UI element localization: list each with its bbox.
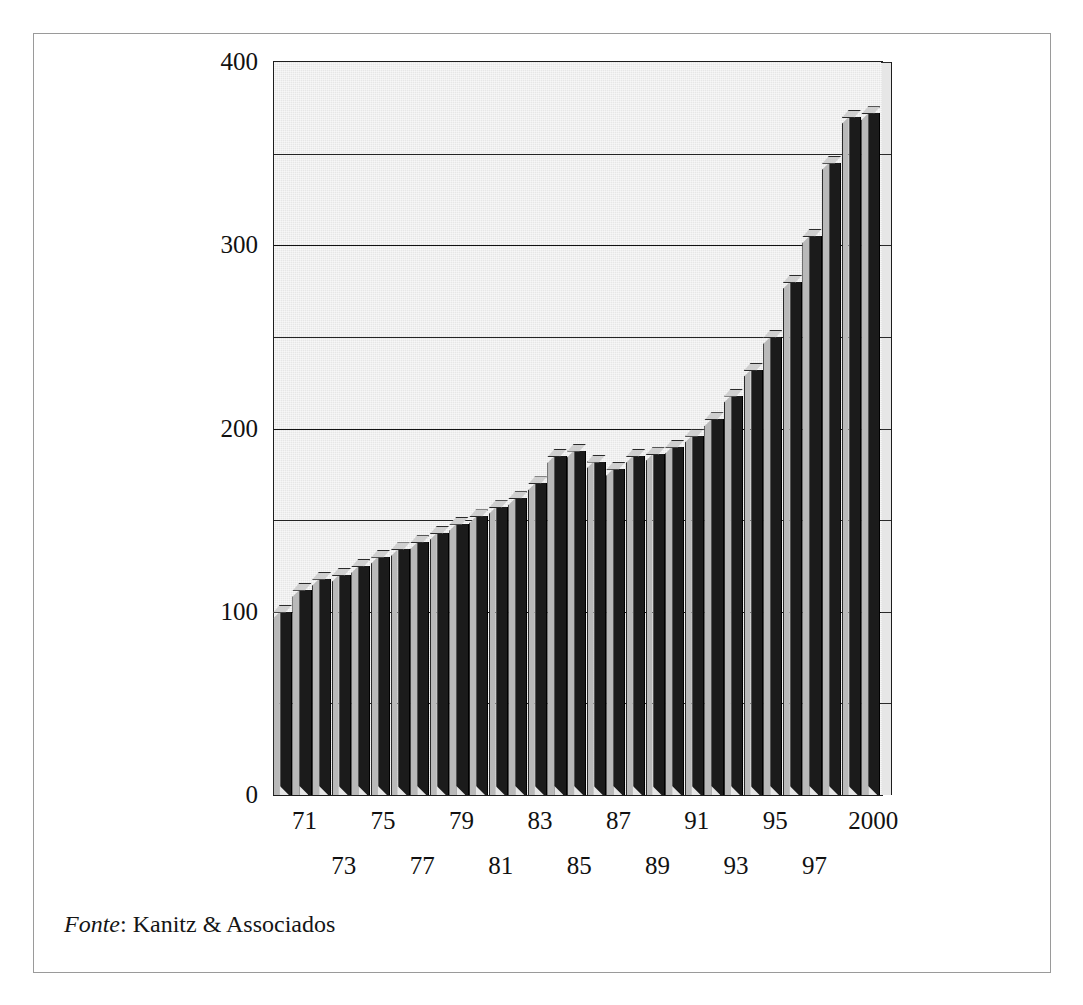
bar [692, 436, 704, 795]
bar-side-face [547, 456, 554, 795]
bar [515, 498, 527, 795]
bar-front-face [574, 451, 586, 796]
bar-side-face [606, 469, 613, 795]
wall-tick [881, 154, 891, 155]
bar-front-face [790, 282, 802, 795]
bar-side-face [626, 456, 633, 795]
bar-side-face [508, 498, 515, 795]
bar-side-face [489, 507, 496, 795]
bar-side-face [724, 396, 731, 795]
bar [437, 533, 449, 795]
bar-side-face [292, 590, 299, 795]
bar [339, 575, 351, 795]
source-value: Kanitz & Associados [133, 911, 336, 937]
bar-front-face [476, 516, 488, 795]
figure-frame: 0100200300400 71757983879195200073778185… [33, 33, 1051, 973]
bar [319, 579, 331, 795]
bar-side-face [312, 579, 319, 795]
wall-tick [881, 429, 891, 430]
bar [731, 396, 743, 795]
bar [574, 451, 586, 796]
x-axis-tick-label: 85 [567, 853, 592, 878]
bar-front-face [770, 337, 782, 795]
bar-side-face [567, 451, 574, 796]
wall-tick [881, 520, 891, 521]
bar-side-face [371, 557, 378, 795]
wall-tick [881, 612, 891, 613]
bar [829, 163, 841, 795]
bar-front-face [554, 456, 566, 795]
bar-front-face [339, 575, 351, 795]
bar [770, 337, 782, 795]
bar-side-face [685, 436, 692, 795]
x-axis-tick-label: 83 [527, 808, 552, 833]
bar-front-face [672, 447, 684, 795]
x-axis-tick-label: 89 [645, 853, 670, 878]
bar-side-face [842, 117, 849, 795]
bar [398, 549, 410, 795]
bar [554, 456, 566, 795]
bar-side-face [410, 542, 417, 795]
bar-side-face [528, 483, 535, 795]
y-axis-tick-label: 100 [221, 598, 259, 623]
bar-front-face [456, 524, 468, 795]
bar-front-face [731, 396, 743, 795]
bar [653, 454, 665, 795]
bar-front-face [751, 370, 763, 795]
bar [711, 419, 723, 795]
bar-front-face [653, 454, 665, 795]
bar-front-face [849, 117, 861, 795]
bar [417, 542, 429, 795]
bar-front-face [319, 579, 331, 795]
plot-area [273, 61, 883, 796]
bar-side-face [783, 282, 790, 795]
bar-front-face [358, 566, 370, 795]
bar [613, 469, 625, 795]
chart-area: 0100200300400 71757983879195200073778185… [34, 34, 1052, 889]
x-axis-tick-label: 93 [724, 853, 749, 878]
y-axis-tick-label: 200 [221, 415, 259, 440]
bar-front-face [417, 542, 429, 795]
x-axis-tick-label: 79 [449, 808, 474, 833]
y-axis-tick-label: 300 [221, 232, 259, 257]
bar [751, 370, 763, 795]
plot-right-wall [882, 62, 892, 795]
bar [672, 447, 684, 795]
bar-front-face [809, 236, 821, 795]
bar-side-face [273, 612, 280, 795]
bar [358, 566, 370, 795]
bar-front-face [299, 590, 311, 795]
x-axis-labels: 71757983879195200073778185899397 [273, 804, 893, 889]
x-axis-tick-label: 77 [410, 853, 435, 878]
wall-tick [881, 337, 891, 338]
bar-front-face [398, 549, 410, 795]
x-axis-tick-label: 81 [488, 853, 513, 878]
bar [378, 557, 390, 795]
x-axis-tick-label: 71 [292, 808, 317, 833]
bar [594, 462, 606, 796]
bar-front-face [515, 498, 527, 795]
bar-side-face [704, 419, 711, 795]
x-axis-tick-label: 73 [331, 853, 356, 878]
bar-front-face [496, 507, 508, 795]
bar [809, 236, 821, 795]
bars-layer [274, 62, 882, 795]
bar [868, 113, 880, 795]
wall-tick [881, 62, 891, 63]
bar-side-face [332, 575, 339, 795]
y-axis-tick-label: 400 [221, 49, 259, 74]
bar-front-face [633, 456, 645, 795]
x-axis-tick-label: 87 [606, 808, 631, 833]
bar [790, 282, 802, 795]
source-separator: : [120, 911, 133, 937]
bar-front-face [535, 483, 547, 795]
bar-front-face [711, 419, 723, 795]
bar-side-face [646, 454, 653, 795]
bar-front-face [692, 436, 704, 795]
bar-side-face [587, 462, 594, 796]
x-axis-tick-label: 75 [371, 808, 396, 833]
bar-front-face [829, 163, 841, 795]
y-axis-labels: 0100200300400 [184, 61, 258, 794]
bar [535, 483, 547, 795]
bar-side-face [351, 566, 358, 795]
